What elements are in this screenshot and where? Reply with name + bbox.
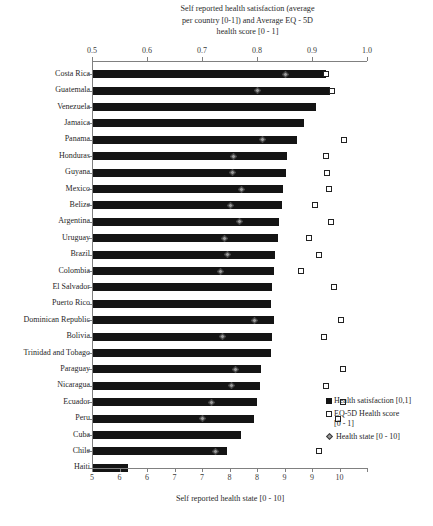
bottom-axis-tick <box>340 468 341 472</box>
bottom-axis-tick <box>202 468 203 472</box>
bar <box>93 103 316 111</box>
open-square-icon <box>326 411 332 417</box>
bottom-axis-tick <box>367 468 368 472</box>
legend-item-health-satisfaction: Health satisfaction [0,1] <box>326 396 433 406</box>
diamond-icon <box>326 433 334 441</box>
bottom-axis-tick <box>312 468 313 472</box>
eq5d-marker <box>323 383 329 389</box>
legend-sublabel: [0 - 1] <box>334 419 433 429</box>
bottom-axis-tick <box>120 468 121 472</box>
bar <box>93 152 287 160</box>
category-axis-line <box>92 61 93 468</box>
bar <box>93 283 272 291</box>
bottom-axis-tick <box>147 468 148 472</box>
bottom-axis-tick-label: 6 <box>132 473 162 482</box>
eq5d-marker <box>326 186 332 192</box>
bottom-axis-tick-label: 8 <box>242 473 272 482</box>
bottom-axis-tick <box>175 468 176 472</box>
bottom-axis-tick-label: 9 <box>270 473 300 482</box>
bar <box>93 300 271 308</box>
bar <box>93 267 274 275</box>
legend-label: Health state [0 - 10] <box>336 432 400 441</box>
eq5d-marker <box>340 366 346 372</box>
eq5d-marker <box>306 235 312 241</box>
bottom-axis-tick <box>230 468 231 472</box>
bar <box>93 349 271 357</box>
diamond-glyph <box>326 433 333 440</box>
bar <box>93 136 297 144</box>
eq5d-marker <box>316 448 322 454</box>
filled-square-icon <box>326 398 332 404</box>
eq5d-marker <box>329 88 335 94</box>
bar <box>93 169 286 177</box>
eq5d-marker <box>323 71 329 77</box>
legend-label: Health satisfaction [0,1] <box>334 396 411 405</box>
eq5d-marker <box>298 268 304 274</box>
chart-legend: Health satisfaction [0,1]EQ-5D Health sc… <box>326 396 433 445</box>
bar <box>93 70 326 78</box>
eq5d-marker <box>331 284 337 290</box>
chart-root: Self reported health satisfaction (avera… <box>0 0 433 526</box>
bottom-axis-tick-label: 9 <box>297 473 327 482</box>
eq5d-marker <box>321 334 327 340</box>
eq5d-marker <box>323 153 329 159</box>
bar <box>93 431 241 439</box>
bar <box>93 185 283 193</box>
eq5d-marker <box>312 202 318 208</box>
bar <box>93 316 274 324</box>
legend-label: EQ-5D Health score <box>334 409 399 418</box>
eq5d-marker <box>324 170 330 176</box>
eq5d-marker <box>316 252 322 258</box>
bar <box>93 218 279 226</box>
plot-area <box>0 0 433 526</box>
bottom-axis-tick-label: 10 <box>325 473 355 482</box>
bar <box>93 119 304 127</box>
bar <box>93 447 227 455</box>
bottom-axis-tick-label: 5 <box>77 473 107 482</box>
bar <box>93 415 254 423</box>
bar <box>93 234 278 242</box>
bottom-axis-tick-label: 7 <box>187 473 217 482</box>
bar <box>93 87 330 95</box>
bottom-axis-tick <box>92 468 93 472</box>
bottom-axis-tick-label: 6 <box>105 473 135 482</box>
eq5d-marker <box>341 137 347 143</box>
legend-item-health-state: Health state [0 - 10] <box>326 432 433 442</box>
bar <box>93 333 272 341</box>
bottom-axis-tick <box>257 468 258 472</box>
bottom-axis-tick-label: 7 <box>160 473 190 482</box>
bar <box>93 251 275 259</box>
bar <box>93 201 282 209</box>
legend-item-eq5d-health-score: EQ-5D Health score[0 - 1] <box>326 409 433 429</box>
bar <box>93 398 257 406</box>
bottom-axis-tick-label: 8 <box>215 473 245 482</box>
eq5d-marker <box>328 219 334 225</box>
bottom-axis-title: Self reported health state [0 - 10] <box>90 494 370 503</box>
eq5d-marker <box>338 317 344 323</box>
bottom-axis-tick <box>285 468 286 472</box>
